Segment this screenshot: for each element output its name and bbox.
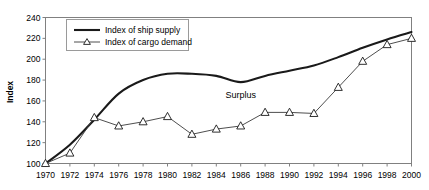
chart-canvas: 100120140160180200220240 197019721974197… [0,0,429,190]
x-axis-tick-labels: 1970197219741976197819801982198419861988… [36,170,421,180]
data-point-marker [237,122,245,129]
x-tick-label: 1996 [353,170,372,180]
y-tick-label: 140 [26,117,40,127]
x-tick-label: 1994 [329,170,348,180]
series-markers-cargo-demand [42,34,416,166]
line-chart: 100120140160180200220240 197019721974197… [0,0,429,190]
x-tick-label: 1992 [304,170,323,180]
data-point-marker [286,108,294,115]
x-tick-label: 1972 [60,170,79,180]
y-tick-label: 180 [26,75,40,85]
x-tick-label: 1998 [378,170,397,180]
x-tick-label: 1990 [280,170,299,180]
x-tick-label: 2000 [402,170,421,180]
data-point-marker [261,108,269,115]
chart-legend: Index of ship supply Index of cargo dema… [67,20,193,51]
x-tick-label: 1982 [182,170,201,180]
legend-label-cargo-demand: Index of cargo demand [105,37,192,47]
y-axis-tick-labels: 100120140160180200220240 [26,13,40,169]
x-tick-label: 1978 [134,170,153,180]
data-point-marker [164,112,172,119]
legend-label-ship-supply: Index of ship supply [105,25,181,35]
data-point-marker [66,149,74,156]
y-axis-title: Index [5,81,15,103]
y-tick-label: 220 [26,33,40,43]
annotation-surplus: Surplus [225,90,256,100]
x-tick-label: 1976 [109,170,128,180]
series-line-cargo-demand [46,38,412,163]
x-tick-label: 1984 [207,170,226,180]
x-tick-label: 1980 [158,170,177,180]
x-tick-label: 1986 [231,170,250,180]
x-tick-label: 1974 [85,170,104,180]
x-tick-label: 1970 [36,170,55,180]
x-tick-label: 1988 [256,170,275,180]
y-tick-label: 200 [26,54,40,64]
data-point-marker [359,57,367,64]
data-point-marker [408,34,416,41]
y-tick-label: 120 [26,138,40,148]
y-tick-label: 240 [26,13,40,23]
y-tick-label: 100 [26,159,40,169]
y-tick-label: 160 [26,96,40,106]
